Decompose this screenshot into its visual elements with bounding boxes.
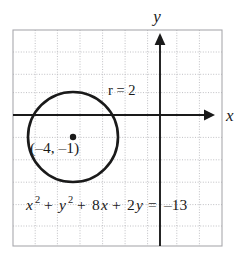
- equation-plus-3: +: [112, 196, 121, 213]
- canvas-background: [0, 0, 245, 260]
- circle-graph-figure: y x r = 2 (–4, –1) x 2 + y 2 + 8 x + 2 y…: [0, 0, 245, 260]
- equation-plus-1: +: [44, 196, 53, 213]
- x-axis-label: x: [225, 106, 234, 125]
- coordinate-plane-svg: y x r = 2 (–4, –1) x 2 + y 2 + 8 x + 2 y…: [0, 0, 245, 260]
- radius-label: r = 2: [108, 82, 136, 98]
- equation-term-2y-coeff: 2: [127, 196, 135, 213]
- equation-term-x-squared-exp: 2: [35, 194, 40, 205]
- center-coordinate-label: (–4, –1): [30, 139, 79, 157]
- equation-term-2y-var: y: [134, 196, 143, 213]
- equation-term-8x-var: x: [100, 196, 108, 213]
- equation-equals-sign: =: [148, 196, 157, 213]
- equation-term-8x-coeff: 8: [92, 196, 100, 213]
- equation-term-y-squared-base: y: [57, 196, 66, 213]
- equation-term-x-squared-base: x: [25, 196, 33, 213]
- equation-right-hand-side: –13: [163, 196, 188, 213]
- equation-plus-2: +: [77, 196, 86, 213]
- equation-term-y-squared-exp: 2: [68, 194, 73, 205]
- y-axis-label: y: [151, 7, 161, 26]
- circle-equation: x 2 + y 2 + 8 x + 2 y = –13: [25, 194, 188, 213]
